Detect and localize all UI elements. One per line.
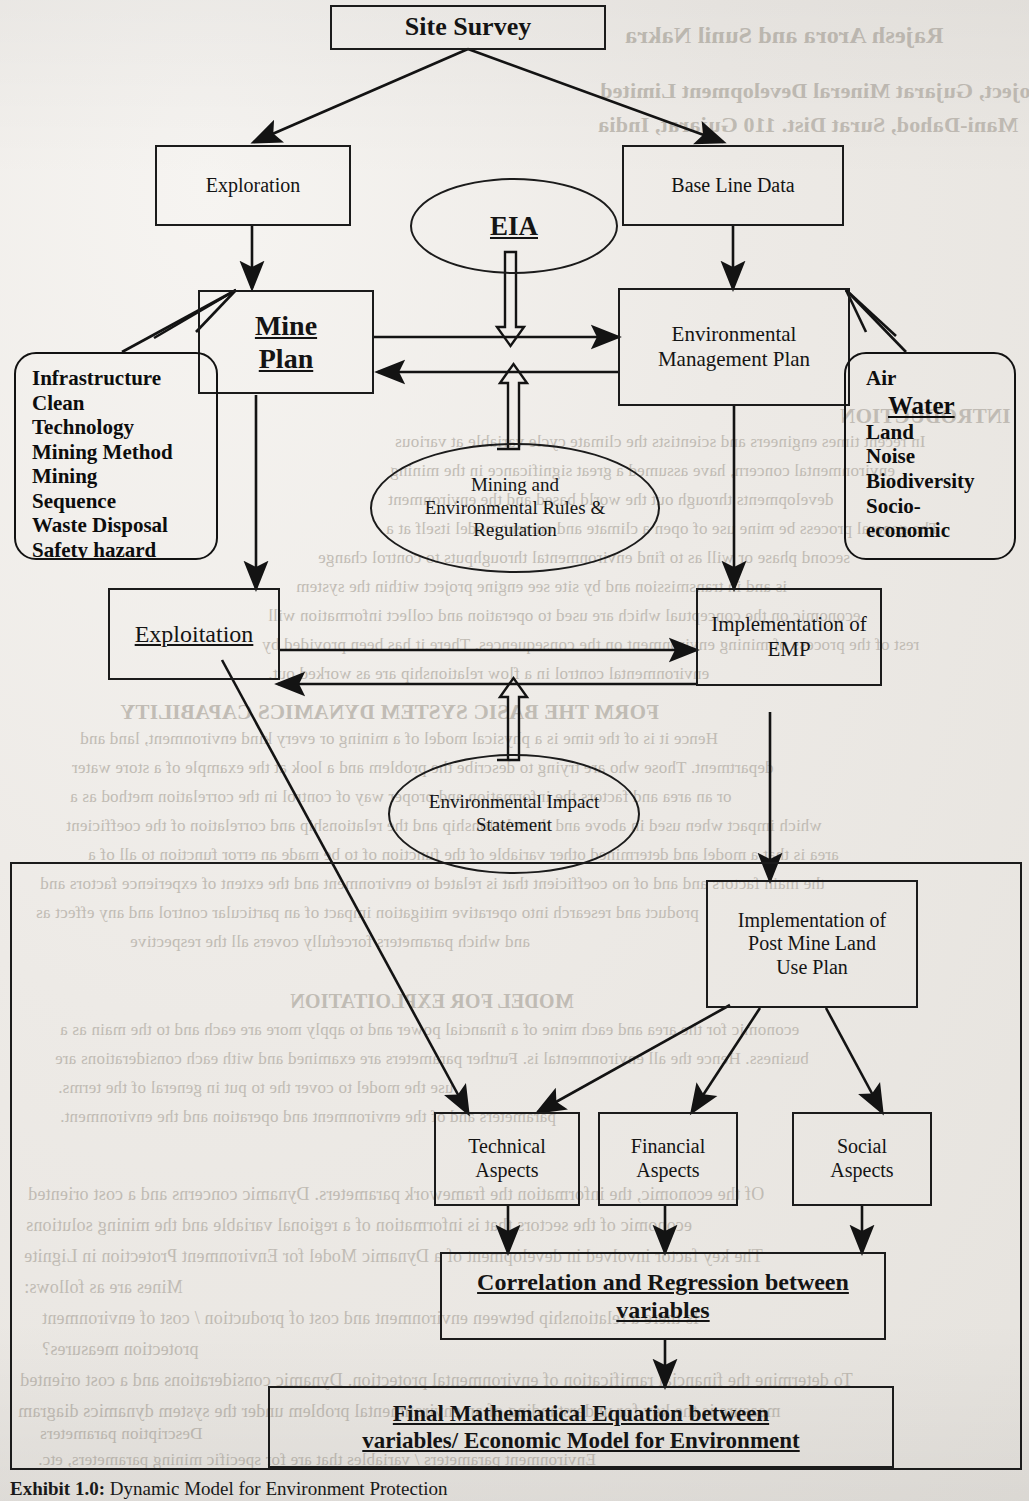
callout-left-item-4: Mining xyxy=(32,464,97,488)
node-base-line-data[interactable]: Base Line Data xyxy=(622,145,844,226)
callout-left-item-2: Technology xyxy=(32,415,134,439)
node-site-survey[interactable]: Site Survey xyxy=(330,5,606,50)
node-financial-aspects[interactable]: Financial Aspects xyxy=(598,1112,738,1206)
node-environmental-impact-statement[interactable]: Environmental Impact Statement xyxy=(388,754,640,874)
node-base-line-data-label: Base Line Data xyxy=(671,174,794,198)
node-mining-environmental-rules[interactable]: Mining and Environmental Rules & Regulat… xyxy=(370,443,660,573)
rules-line2: Environmental Rules & xyxy=(425,497,605,520)
technical-line1: Technical xyxy=(468,1135,545,1159)
node-site-survey-label: Site Survey xyxy=(405,12,531,43)
node-social-aspects[interactable]: Social Aspects xyxy=(792,1112,932,1206)
financial-line1: Financial xyxy=(631,1135,705,1159)
final-line1: Final Mathematical Equation between xyxy=(393,1400,769,1427)
final-line2: variables/ Economic Model for Environmen… xyxy=(362,1427,799,1454)
node-mine-plan[interactable]: Mine Plan xyxy=(198,290,374,394)
node-implementation-of-emp[interactable]: Implementation of EMP xyxy=(696,588,882,686)
callout-right-item-water: Water xyxy=(888,391,955,420)
emp-line1: Environmental xyxy=(672,322,797,347)
node-mine-plan-line1: Mine xyxy=(255,309,317,342)
callout-left-item-6: Waste Disposal xyxy=(32,513,168,537)
node-exploitation[interactable]: Exploitation xyxy=(108,588,280,680)
callout-left-item-5: Sequence xyxy=(32,489,116,513)
social-line1: Social xyxy=(837,1135,887,1159)
node-environmental-management-plan[interactable]: Environmental Management Plan xyxy=(618,288,850,406)
rules-line3: Regulation xyxy=(473,519,556,542)
callout-left-item-1: Clean xyxy=(32,391,85,415)
node-exploitation-label: Exploitation xyxy=(135,620,254,648)
emp-line2: Management Plan xyxy=(658,347,810,372)
callout-right-item-2: Biodiversity xyxy=(866,469,975,493)
callout-left-item-7: Safety hazard xyxy=(32,538,156,560)
pmlu-line3: Use Plan xyxy=(776,956,848,980)
node-mine-plan-line2: Plan xyxy=(259,342,313,375)
technical-line2: Aspects xyxy=(475,1159,538,1183)
callout-right-item-3: Socio- xyxy=(866,494,921,518)
pmlu-line1: Implementation of xyxy=(738,909,886,933)
node-eia[interactable]: EIA xyxy=(410,178,618,274)
node-technical-aspects[interactable]: Technical Aspects xyxy=(434,1112,580,1206)
flowchart-diagram: Site Survey Exploration Base Line Data E… xyxy=(0,0,1029,1501)
callout-environmental-attributes[interactable]: Air Water Land Noise Biodiversity Socio-… xyxy=(844,352,1016,560)
callout-left-item-3: Mining Method xyxy=(32,440,173,464)
callout-right-item-0: Land xyxy=(866,420,914,444)
node-eia-label: EIA xyxy=(490,210,538,242)
node-exploration[interactable]: Exploration xyxy=(155,145,351,226)
node-post-mine-land-use-plan[interactable]: Implementation of Post Mine Land Use Pla… xyxy=(706,880,918,1008)
correlation-line1: Correlation and Regression between xyxy=(477,1268,849,1296)
exhibit-caption-text: Dynamic Model for Environment Protection xyxy=(110,1478,448,1499)
pmlu-line2: Post Mine Land xyxy=(748,932,876,956)
callout-left-item-0: Infrastructure xyxy=(32,366,161,390)
eis-line2: Statement xyxy=(476,814,552,837)
eis-line1: Environmental Impact xyxy=(429,791,599,814)
impl-emp-line2: EMP xyxy=(767,637,810,662)
node-correlation-regression[interactable]: Correlation and Regression between varia… xyxy=(440,1252,886,1340)
node-exploration-label: Exploration xyxy=(206,174,300,198)
social-line2: Aspects xyxy=(830,1159,893,1183)
callout-right-item-4: economic xyxy=(866,518,950,542)
node-final-mathematical-equation[interactable]: Final Mathematical Equation between vari… xyxy=(268,1386,894,1468)
callout-right-item-air: Air xyxy=(866,366,896,390)
rules-line1: Mining and xyxy=(471,474,559,497)
financial-line2: Aspects xyxy=(636,1159,699,1183)
correlation-line2: variables xyxy=(616,1296,709,1324)
exhibit-caption-label: Exhibit 1.0: xyxy=(10,1478,105,1499)
exhibit-caption: Exhibit 1.0: Dynamic Model for Environme… xyxy=(10,1478,448,1500)
callout-right-item-1: Noise xyxy=(866,444,915,468)
callout-mine-plan-attributes[interactable]: Infrastructure Clean Technology Mining M… xyxy=(14,352,218,560)
impl-emp-line1: Implementation of xyxy=(711,612,867,637)
